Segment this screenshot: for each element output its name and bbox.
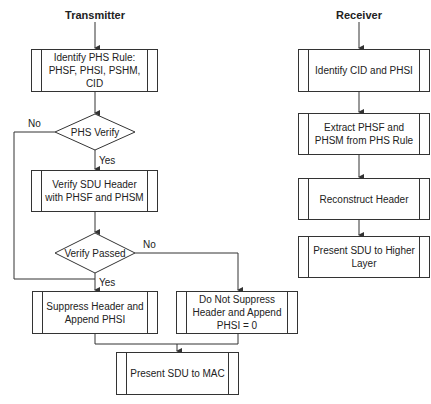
identify-phs-rule-text: Identify PHS Rule: PHSF, PHSI, PSHM, CID xyxy=(44,51,145,90)
phs-verify-no-label: No xyxy=(28,118,41,129)
verify-passed-yes-label: Yes xyxy=(99,277,115,288)
verify-sdu-header-text: Verify SDU Header with PHSF and PHSM xyxy=(44,178,145,204)
identify-phs-rule-box: Identify PHS Rule: PHSF, PHSI, PSHM, CID xyxy=(31,49,158,92)
receiver-title: Receiver xyxy=(336,9,382,21)
present-sdu-higher-layer-box: Present SDU to Higher Layer xyxy=(298,236,430,278)
present-sdu-higher-layer-text: Present SDU to Higher Layer xyxy=(311,244,417,270)
identify-cid-phsi-text: Identify CID and PHSI xyxy=(315,64,413,77)
present-sdu-to-mac-text: Present SDU to MAC xyxy=(130,367,224,380)
reconstruct-header-box: Reconstruct Header xyxy=(298,178,430,220)
suppress-header-text: Suppress Header and Append PHSI xyxy=(45,300,145,326)
identify-cid-phsi-box: Identify CID and PHSI xyxy=(298,49,430,92)
verify-sdu-header-box: Verify SDU Header with PHSF and PHSM xyxy=(31,170,158,212)
extract-phsf-phsm-box: Extract PHSF and PHSM from PHS Rule xyxy=(298,113,430,155)
transmitter-title: Transmitter xyxy=(65,9,125,21)
suppress-header-box: Suppress Header and Append PHSI xyxy=(32,291,158,334)
reconstruct-header-text: Reconstruct Header xyxy=(320,193,409,206)
extract-phsf-phsm-text: Extract PHSF and PHSM from PHS Rule xyxy=(311,121,417,147)
phs-verify-yes-label: Yes xyxy=(99,155,115,166)
phs-verify-decision: PHS Verify xyxy=(71,127,119,138)
do-not-suppress-box: Do Not Suppress Header and Append PHSI =… xyxy=(176,291,298,334)
do-not-suppress-text: Do Not Suppress Header and Append PHSI =… xyxy=(186,293,288,332)
verify-passed-no-label: No xyxy=(143,239,156,250)
verify-passed-decision: Verify Passed xyxy=(64,248,125,259)
present-sdu-to-mac-box: Present SDU to MAC xyxy=(116,352,239,395)
